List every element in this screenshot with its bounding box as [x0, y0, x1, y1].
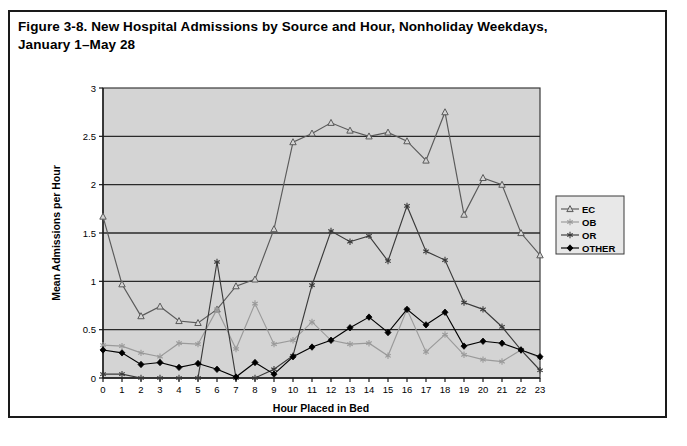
y-tick-label: 3 — [91, 83, 96, 94]
y-tick-label: 1.5 — [83, 228, 96, 239]
x-tick-label: 11 — [307, 384, 317, 395]
x-tick-label: 10 — [288, 384, 299, 395]
y-axis-title: Mean Admissions per Hour — [50, 165, 62, 301]
x-axis-title: Hour Placed in Bed — [273, 402, 369, 414]
x-tick-label: 3 — [157, 384, 162, 395]
y-axis-ticks: 00.511.522.53 — [83, 83, 103, 384]
legend-item-label: EC — [582, 204, 595, 215]
x-tick-label: 15 — [383, 384, 394, 395]
y-tick-label: 2.5 — [83, 131, 96, 142]
x-tick-label: 12 — [326, 384, 337, 395]
x-tick-label: 14 — [364, 384, 375, 395]
x-tick-label: 1 — [119, 384, 124, 395]
chart-plot: 00.511.522.53 01234567891011121314151617… — [0, 0, 687, 446]
x-tick-label: 9 — [271, 384, 276, 395]
x-tick-label: 4 — [176, 384, 181, 395]
x-tick-label: 19 — [459, 384, 470, 395]
x-tick-label: 23 — [535, 384, 546, 395]
legend-item-label: OTHER — [582, 243, 615, 254]
x-tick-label: 7 — [233, 384, 238, 395]
y-tick-label: 2 — [91, 179, 96, 190]
x-tick-label: 0 — [100, 384, 105, 395]
x-tick-label: 17 — [421, 384, 432, 395]
y-tick-label: 0 — [91, 373, 96, 384]
x-axis-ticks: 01234567891011121314151617181920212223 — [100, 378, 545, 395]
x-tick-label: 6 — [214, 384, 219, 395]
x-tick-label: 21 — [497, 384, 508, 395]
x-tick-label: 18 — [440, 384, 451, 395]
x-tick-label: 8 — [252, 384, 257, 395]
x-tick-label: 5 — [195, 384, 200, 395]
x-tick-label: 20 — [478, 384, 489, 395]
y-tick-label: 0.5 — [83, 324, 96, 335]
legend-item-label: OR — [582, 230, 596, 241]
x-tick-label: 2 — [138, 384, 143, 395]
x-tick-label: 13 — [345, 384, 356, 395]
legend: ECOBOROTHER — [556, 196, 624, 254]
x-tick-label: 22 — [516, 384, 527, 395]
x-tick-label: 16 — [402, 384, 413, 395]
y-tick-label: 1 — [91, 276, 96, 287]
legend-item-label: OB — [582, 217, 596, 228]
